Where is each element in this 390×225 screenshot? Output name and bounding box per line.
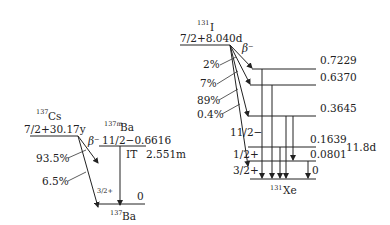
xe-energy-0: 0 [312,164,319,176]
decay-scheme-diagram: 137 Cs 7/2+30.17y β⁻ 93.5% 6.5% 137m Ba … [0,0,390,225]
cs-branch-93: 93.5% [36,152,69,164]
cs-parent-level: 7/2+30.17y [24,123,86,135]
cs-beta-label: β⁻ [87,135,100,147]
i-branch-7: 7% [200,77,217,89]
xe-spin-1-2: 1/2+ [233,148,259,160]
cs137-scheme: 137 Cs 7/2+30.17y β⁻ 93.5% 6.5% 137m Ba … [24,108,186,222]
xe-energy-0-1639: 0.1639 [310,133,347,145]
ba-isomer-level: 11/2−0.6616 [102,134,171,146]
ba-ground-mass: 137 [110,209,122,217]
i-parent-level: 7/2+8.040d [180,32,243,44]
i-branch-04-leader [222,104,240,114]
i-mass-number: 131 [197,19,209,27]
i-branch-89: 89% [197,94,220,106]
xe-symbol: Xe [283,184,297,196]
it-halflife: 2.551m [146,148,186,160]
xe-isomer-halflife: 11.8d [346,141,376,153]
i-branch-04: 0.4% [197,108,224,120]
xe-spin-11-2: 11/2− [230,126,262,138]
cs-mass-number: 137 [36,108,48,116]
i131-scheme: 131 I 7/2+8.040d β⁻ 2% 7% 89% 0.4% 0.722… [180,19,376,196]
cs-branch-6-leader [68,172,86,181]
i-branch-2: 2% [203,58,220,70]
xe-energy-0-0801: 0.0801 [310,148,347,160]
xe-energy-0-6370: 0.6370 [320,71,357,83]
cs-branch-6: 6.5% [42,175,69,187]
ba-ground-spin: 3/2+ [97,187,113,195]
ba-ground-symbol: Ba [122,210,136,222]
xe-energy-0-7229: 0.7229 [320,54,357,66]
cs-symbol: Cs [48,110,61,122]
it-label: IT [126,148,137,160]
ba-isomer-symbol: Ba [120,121,134,133]
ba-ground-energy: 0 [137,190,144,202]
xe-energy-0-3645: 0.3645 [320,102,357,114]
i-branch-89-leader [219,89,238,100]
i-beta-label: β⁻ [241,42,254,54]
xe-mass-number: 131 [270,184,282,192]
xe-spin-3-2: 3/2+ [233,164,259,176]
